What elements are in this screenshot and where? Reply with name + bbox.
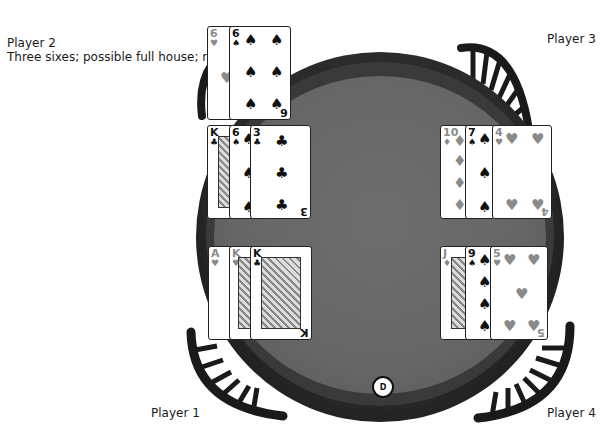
card[interactable]: 6 ♠ ♠ ♠ ♠ ♠ ♠ ♠ 6 <box>229 26 291 120</box>
table-felt <box>214 76 546 394</box>
player3-hand: 10 ♦ ♦ ♦ ♦ ♦ 7 ♠ ♠ ♠ ♠ 4 ♥ ♥ ♥ ♥ ♥ 4 <box>440 125 552 221</box>
card[interactable]: 4 ♥ ♥ ♥ ♥ ♥ 4 <box>492 125 552 219</box>
player2-hand-top: 6 ♥ ♥ 6 ♠ ♠ ♠ ♠ ♠ ♠ ♠ 6 <box>207 26 291 122</box>
king-face-art <box>261 257 301 329</box>
card[interactable]: 7 ♠ ♠ ♠ ♠ <box>465 125 495 219</box>
card[interactable]: K ♣ K <box>250 246 312 340</box>
player3-label: Player 3 <box>547 32 596 46</box>
player4-hand: J ♦ 9 ♠ ♠ ♠ ♠ ♠ 5 ♥ ♥ ♥ ♥ ♥ ♥ 5 <box>440 246 548 342</box>
player1-hand: A ♥ K ♥ K ♣ K <box>208 246 312 342</box>
dealer-button-label: D <box>380 383 387 392</box>
card[interactable]: 5 ♥ ♥ ♥ ♥ ♥ ♥ 5 <box>490 246 548 340</box>
dealer-button: D <box>372 376 394 398</box>
card[interactable]: 3 ♣ ♣ ♣ ♣ 3 <box>250 125 311 219</box>
player2-hand-mid: K ♣ 6 ♠ ♠ ♠ ♠ 3 ♣ ♣ ♣ ♣ 3 <box>207 125 311 221</box>
